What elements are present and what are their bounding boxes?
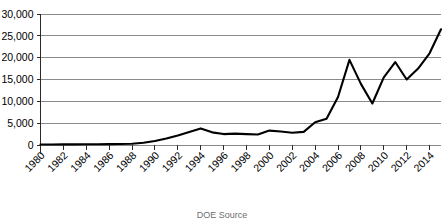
y-axis-labels-group: 05,00010,00015,00020,00025,00030,000 <box>1 8 33 151</box>
x-tick-marks-group <box>41 145 430 150</box>
y-axis-tick-label: 0 <box>28 139 34 151</box>
y-axis-tick-label: 5,000 <box>7 117 33 129</box>
x-axis-labels-group: 1980198219841986198819901992199419961998… <box>22 149 436 174</box>
x-axis-tick-label: 1984 <box>68 149 93 174</box>
x-axis-tick-label: 2010 <box>365 149 390 174</box>
gridlines-group <box>41 14 442 145</box>
chart-container: 05,00010,00015,00020,00025,00030,000 198… <box>0 0 445 221</box>
x-axis-tick-label: 2008 <box>342 149 367 174</box>
chart-caption: DOE Source <box>197 210 248 220</box>
x-axis-tick-label: 2002 <box>274 149 299 174</box>
x-axis-tick-label: 1994 <box>182 149 207 174</box>
line-chart: 05,00010,00015,00020,00025,00030,000 198… <box>0 0 445 221</box>
x-axis-tick-label: 2004 <box>297 149 322 174</box>
data-series-line <box>41 29 442 144</box>
y-axis-tick-label: 10,000 <box>1 95 33 107</box>
x-axis-tick-label: 1988 <box>113 149 138 174</box>
y-axis-tick-label: 20,000 <box>1 51 33 63</box>
x-axis-tick-label: 1986 <box>91 149 116 174</box>
x-axis-tick-label: 1990 <box>136 149 161 174</box>
y-axis-tick-label: 30,000 <box>1 8 33 20</box>
x-axis-tick-label: 1996 <box>205 149 230 174</box>
x-axis-tick-label: 1980 <box>22 149 47 174</box>
x-axis-tick-label: 2000 <box>251 149 276 174</box>
x-axis-tick-label: 2006 <box>319 149 344 174</box>
x-axis-tick-label: 1982 <box>45 149 70 174</box>
x-axis-tick-label: 2012 <box>388 149 413 174</box>
x-axis-tick-label: 1998 <box>228 149 253 174</box>
x-axis-tick-label: 2014 <box>411 149 436 174</box>
y-axis-tick-label: 15,000 <box>1 73 33 85</box>
y-axis-tick-label: 25,000 <box>1 30 33 42</box>
x-axis-tick-label: 1992 <box>159 149 184 174</box>
